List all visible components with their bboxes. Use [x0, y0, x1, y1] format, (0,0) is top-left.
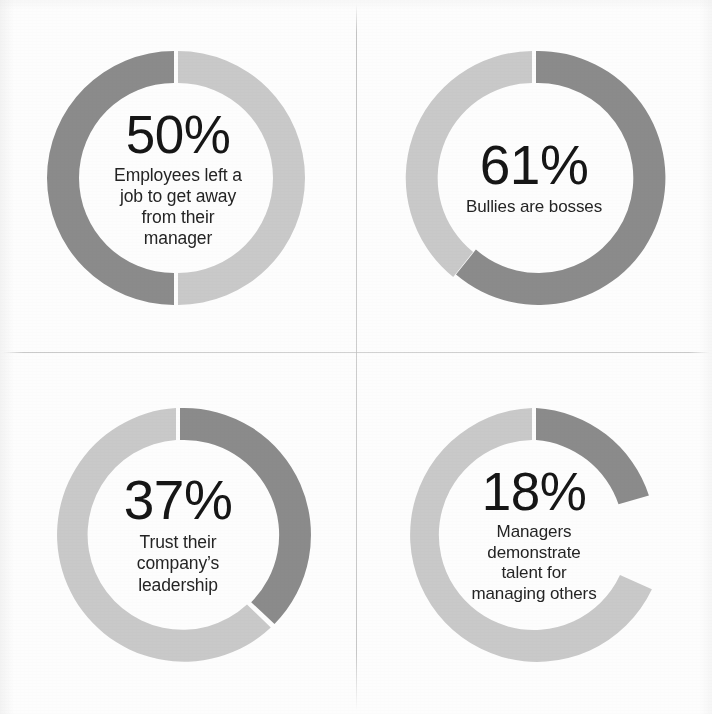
donut-segment-remainder: [178, 51, 305, 305]
donut-grid: 50% Employees left a job to get away fro…: [0, 0, 712, 714]
donut-segment-highlight: [47, 51, 174, 305]
donut-segment-remainder: [406, 51, 532, 277]
donut-card-employees-left-job: 50% Employees left a job to get away fro…: [0, 0, 356, 356]
donut-chart-37: 37% Trust their company’s leadership: [35, 392, 321, 678]
donut-card-managers-demonstrate-talent: 18% Managers demonstrate talent for mana…: [356, 356, 712, 714]
donut-infographic: 50% Employees left a job to get away fro…: [0, 0, 712, 714]
donut-chart-61: 61% Bullies are bosses: [391, 35, 677, 321]
donut-card-bullies-are-bosses: 61% Bullies are bosses: [356, 0, 712, 356]
donut-segment-highlight: [536, 408, 649, 504]
donut-segment-highlight: [180, 408, 311, 624]
donut-chart-18: 18% Managers demonstrate talent for mana…: [391, 392, 677, 678]
donut-chart-50: 50% Employees left a job to get away fro…: [35, 35, 321, 321]
donut-card-trust-company-leadership: 37% Trust their company’s leadership: [0, 356, 356, 714]
